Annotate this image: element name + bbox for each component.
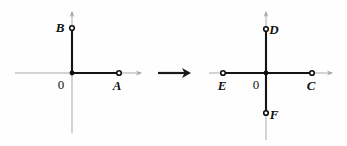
point-C <box>310 71 315 76</box>
point-label-B: B <box>55 20 65 35</box>
left-diagram: B A 0 <box>15 11 142 133</box>
origin-label-left: 0 <box>58 77 65 92</box>
geometry-figure: B A 0 D C E F 0 <box>0 0 347 146</box>
point-A <box>117 71 122 76</box>
maps-to-arrow <box>158 68 191 78</box>
right-diagram: D C E F 0 <box>209 11 333 140</box>
origin-point-left <box>70 71 75 76</box>
point-B <box>70 26 75 31</box>
point-D <box>264 27 269 32</box>
figure-canvas: B A 0 D C E F 0 <box>0 0 347 146</box>
point-label-F: F <box>269 107 279 122</box>
point-label-E: E <box>217 78 227 93</box>
origin-label-right: 0 <box>253 77 260 92</box>
point-E <box>221 71 226 76</box>
point-label-C: C <box>307 78 316 93</box>
point-F <box>264 111 269 116</box>
point-label-D: D <box>268 22 279 37</box>
origin-point-right <box>264 71 269 76</box>
point-label-A: A <box>112 78 122 93</box>
